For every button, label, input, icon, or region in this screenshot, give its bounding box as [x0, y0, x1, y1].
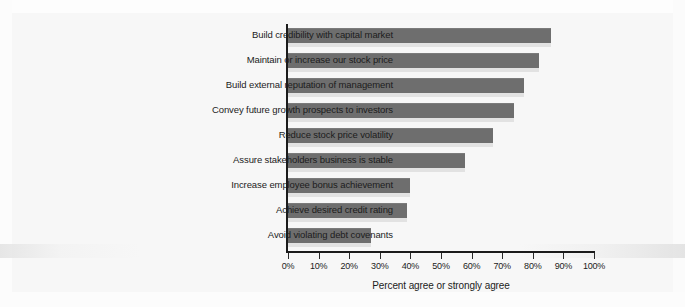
x-tick-label: 40%: [402, 261, 419, 271]
x-tick: [349, 253, 350, 259]
bar-shadow: [288, 243, 371, 247]
bar-shadow: [288, 118, 514, 122]
x-tick-label: 100%: [583, 261, 605, 271]
category-label: Assure stakeholders business is stable: [233, 154, 393, 165]
x-tick: [563, 253, 564, 259]
bar-shadow: [288, 68, 539, 72]
category-label: Avoid violating debt covenants: [268, 229, 393, 240]
bar-shadow: [288, 143, 493, 147]
category-label: Achieve desired credit rating: [276, 204, 393, 215]
bar-shadow: [288, 218, 407, 222]
category-label: Reduce stock price volatility: [279, 129, 393, 140]
x-tick: [441, 253, 442, 259]
x-tick: [502, 253, 503, 259]
x-tick-label: 70%: [493, 261, 510, 271]
bar-shadow: [288, 193, 410, 197]
scan-edge-left: [0, 0, 12, 307]
x-axis-title: Percent agree or strongly agree: [288, 280, 594, 291]
x-tick-label: 50%: [432, 261, 449, 271]
x-tick-label: 30%: [371, 261, 388, 271]
scan-edge-right: [673, 0, 685, 307]
category-label: Build external reputation of management: [226, 79, 393, 90]
x-tick: [319, 253, 320, 259]
x-tick: [533, 253, 534, 259]
category-label: Maintain or increase our stock price: [247, 54, 393, 65]
x-tick: [472, 253, 473, 259]
bar-shadow: [288, 43, 551, 47]
scan-edge-bottom: [0, 292, 685, 307]
category-label: Increase employee bonus achievement: [231, 179, 393, 190]
bar-shadow: [288, 168, 465, 172]
x-tick-label: 60%: [463, 261, 480, 271]
x-tick: [380, 253, 381, 259]
x-tick: [410, 253, 411, 259]
x-tick-label: 10%: [310, 261, 327, 271]
x-tick: [288, 253, 289, 259]
category-label: Build credibility with capital market: [252, 29, 393, 40]
x-tick-label: 0%: [282, 261, 295, 271]
bar-shadow: [288, 93, 524, 97]
scan-edge-top: [0, 0, 685, 13]
x-tick-label: 20%: [340, 261, 357, 271]
chart-figure: 0%10%20%30%40%50%60%70%80%90%100% Build …: [0, 0, 685, 307]
x-tick-label: 90%: [555, 261, 572, 271]
category-label: Convey future growth prospects to invest…: [212, 104, 393, 115]
x-tick: [594, 253, 595, 259]
x-tick-label: 80%: [524, 261, 541, 271]
